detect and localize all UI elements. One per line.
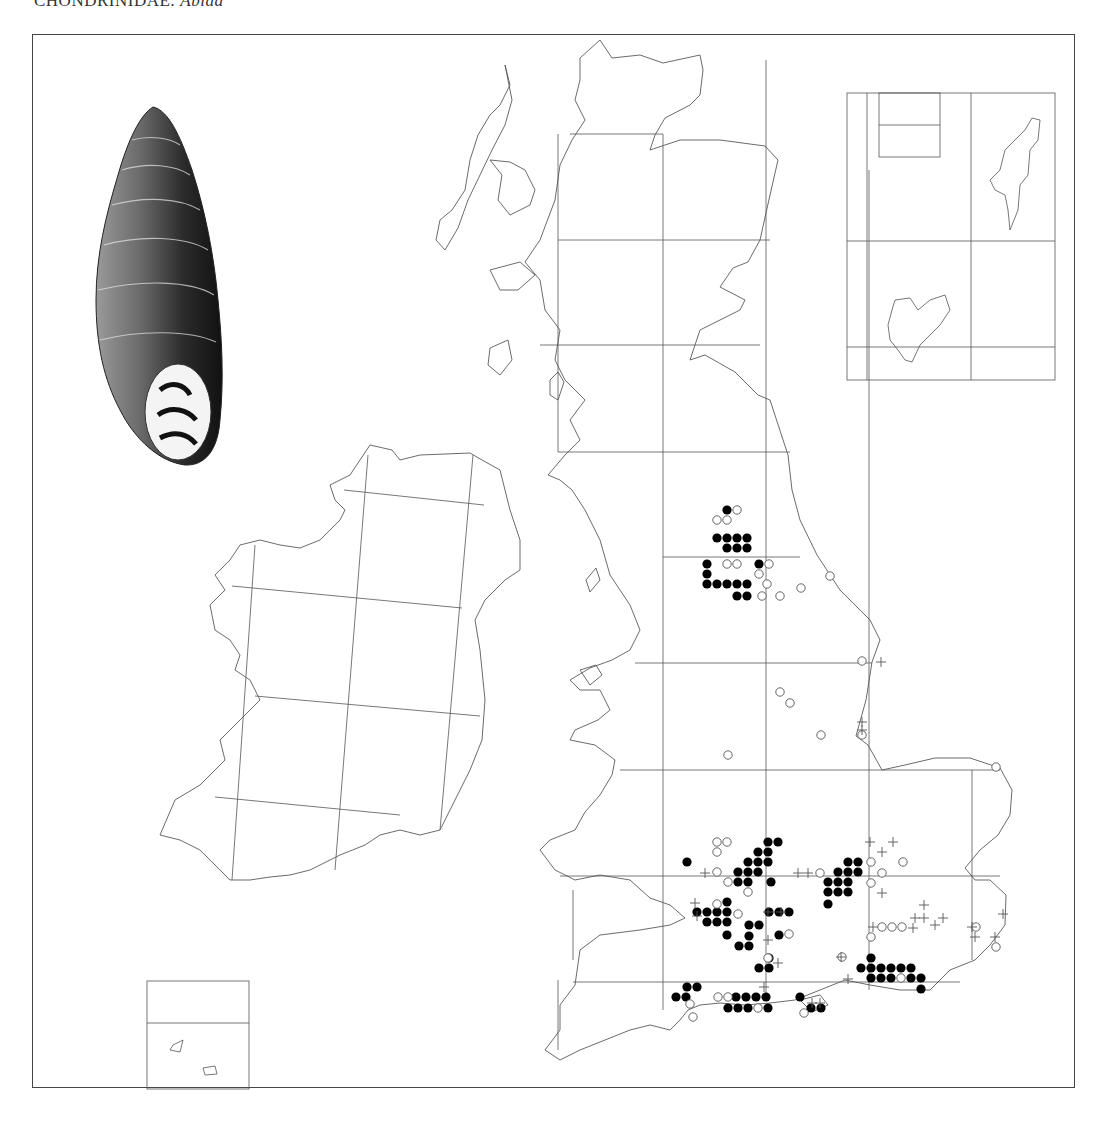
filled-circle-record <box>743 1003 752 1012</box>
filled-circle-record <box>763 857 772 866</box>
ireland-coast <box>160 445 520 880</box>
isle-of-man-coast <box>586 568 600 592</box>
channel-islands-inset <box>147 981 249 1089</box>
filled-circle-record <box>823 877 832 886</box>
filled-circle-record <box>744 920 753 929</box>
filled-circle-record <box>896 963 905 972</box>
filled-circle-record <box>795 992 804 1001</box>
filled-circle-record <box>866 963 875 972</box>
open-circle-record <box>723 516 731 524</box>
filled-circle-record <box>733 867 742 876</box>
filled-circle-record <box>743 867 752 876</box>
open-circle-record <box>867 858 875 866</box>
plus-record <box>865 837 875 847</box>
filled-circle-record <box>741 992 750 1001</box>
open-circle-record <box>686 1000 694 1008</box>
filled-circle-record <box>733 1003 742 1012</box>
filled-circle-record <box>763 837 772 846</box>
open-circle-record <box>744 888 752 896</box>
open-circle-record <box>724 751 732 759</box>
open-circle-record <box>826 572 834 580</box>
plus-record <box>938 913 948 923</box>
filled-circle-record <box>843 887 852 896</box>
filled-circle-record <box>743 857 752 866</box>
filled-circle-record <box>764 963 773 972</box>
plus-record <box>876 657 886 667</box>
filled-circle-record <box>702 917 711 926</box>
distribution-map <box>0 0 1100 1125</box>
open-circle-record <box>898 923 906 931</box>
open-circle-record <box>755 570 763 578</box>
filled-circle-record <box>761 992 770 1001</box>
coastlines <box>160 40 1012 1060</box>
open-circle-record <box>713 900 721 908</box>
filled-circle-record <box>722 505 731 514</box>
filled-circle-record <box>722 533 731 542</box>
northern-isles-inset <box>847 93 1055 380</box>
filled-circle-record <box>692 982 701 991</box>
open-circle-record <box>758 592 766 600</box>
filled-circle-record <box>763 1003 772 1012</box>
filled-circle-record <box>823 899 832 908</box>
filled-circle-record <box>722 907 731 916</box>
great-britain-coast <box>525 40 1012 1060</box>
shetland-coast <box>990 118 1040 230</box>
plus-record <box>803 868 813 878</box>
filled-circle-record <box>743 877 752 886</box>
filled-circle-record <box>742 543 751 552</box>
outer-hebrides-coast <box>436 65 512 250</box>
filled-circle-record <box>671 992 680 1001</box>
filled-circle-record <box>702 569 711 578</box>
islay-coast <box>488 340 512 375</box>
open-circle-record <box>797 584 805 592</box>
open-circle-record <box>724 878 732 886</box>
filled-circle-record <box>823 887 832 896</box>
filled-circle-record <box>712 907 721 916</box>
plus-record <box>908 923 918 933</box>
open-circle-record <box>867 933 875 941</box>
open-circle-record <box>763 580 771 588</box>
filled-circle-record <box>722 897 731 906</box>
filled-circle-record <box>722 579 731 588</box>
filled-circle-record <box>753 847 762 856</box>
open-circle-record <box>733 506 741 514</box>
plus-record <box>690 898 700 908</box>
filled-circle-record <box>886 963 895 972</box>
plus-record <box>998 909 1008 919</box>
filled-circle-record <box>744 941 753 950</box>
filled-circle-record <box>754 920 763 929</box>
plus-record <box>763 935 773 945</box>
filled-circle-record <box>833 877 842 886</box>
filled-circle-record <box>766 877 775 886</box>
filled-circle-record <box>722 930 731 939</box>
filled-circle-record <box>742 579 751 588</box>
filled-circle-record <box>682 982 691 991</box>
filled-circle-record <box>732 591 741 600</box>
plus-record <box>773 958 783 968</box>
grid-lines <box>215 60 1000 1050</box>
plus-record <box>759 982 769 992</box>
skye-coast <box>490 160 535 215</box>
filled-circle-record <box>876 963 885 972</box>
plus-record <box>843 974 853 984</box>
open-circle-record <box>689 1013 697 1021</box>
open-circle-record <box>878 923 886 931</box>
filled-circle-record <box>774 930 783 939</box>
filled-circle-record <box>731 992 740 1001</box>
filled-circle-record <box>754 559 763 568</box>
open-circle-record <box>764 954 772 962</box>
open-circle-record <box>786 699 794 707</box>
filled-circle-record <box>732 543 741 552</box>
plus-record <box>868 922 878 932</box>
filled-circle-record <box>723 1003 732 1012</box>
open-circle-record <box>713 516 721 524</box>
filled-circle-record <box>753 857 762 866</box>
arran-coast <box>550 372 564 400</box>
filled-circle-record <box>742 533 751 542</box>
filled-circle-record <box>886 973 895 982</box>
open-circle-record <box>714 993 722 1001</box>
filled-circle-record <box>712 533 721 542</box>
filled-circle-record <box>773 837 782 846</box>
filled-circle-record <box>853 857 862 866</box>
filled-circle-record <box>732 579 741 588</box>
